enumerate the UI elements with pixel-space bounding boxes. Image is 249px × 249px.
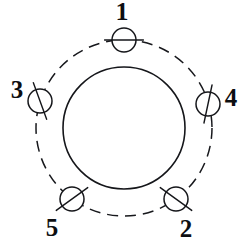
hole-label-1: 1 xyxy=(116,0,129,26)
bolt-circle-diagram: 14253 xyxy=(0,0,249,249)
hole-label-3: 3 xyxy=(11,76,24,103)
technical-drawing-canvas: 14253 xyxy=(0,0,249,249)
hole-label-5: 5 xyxy=(46,214,59,241)
hole-label-4: 4 xyxy=(225,84,238,111)
hole-label-2: 2 xyxy=(180,215,193,242)
